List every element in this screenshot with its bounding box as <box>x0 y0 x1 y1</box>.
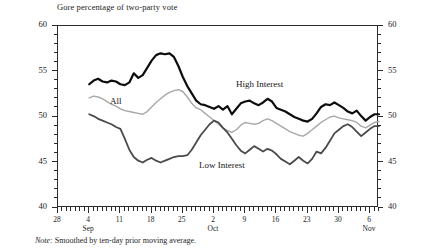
x-axis-tick <box>267 207 268 211</box>
x-axis-tick <box>88 207 89 213</box>
x-axis-tick <box>191 207 192 211</box>
y-axis-tick <box>54 88 57 89</box>
x-axis-tick-label: 18 <box>136 215 166 224</box>
series-lines <box>58 26 379 208</box>
y-axis-tick <box>378 179 381 180</box>
x-axis-tick <box>280 207 281 211</box>
x-axis-tick-label: 28 <box>42 215 72 224</box>
x-axis-tick <box>142 207 143 211</box>
y-axis-tick <box>378 61 381 62</box>
y-axis-tick <box>54 61 57 62</box>
x-axis-tick <box>275 207 276 213</box>
x-axis-tick <box>128 207 129 211</box>
x-axis-tick <box>302 207 303 211</box>
x-axis-tick <box>222 207 223 211</box>
series-label-all: All <box>110 96 122 106</box>
x-axis-tick <box>66 207 67 211</box>
x-axis-tick <box>369 207 370 213</box>
x-axis-tick <box>84 207 85 211</box>
y-axis-tick <box>54 188 57 189</box>
y-axis-tick <box>54 34 57 35</box>
x-axis-tick-label: 6 <box>354 215 384 224</box>
x-axis-tick <box>115 207 116 211</box>
y-axis-tick-label: 40 <box>25 201 47 211</box>
y-axis-tick <box>54 197 57 198</box>
x-axis-tick <box>146 207 147 211</box>
note-text: Smoothed by ten-day prior moving average… <box>55 236 196 245</box>
x-axis-tick <box>351 207 352 211</box>
x-axis-tick <box>164 207 165 211</box>
y-axis-tick-label: 50 <box>25 110 47 120</box>
y-axis-tick <box>54 179 57 180</box>
x-axis-tick <box>329 207 330 211</box>
x-axis-tick <box>333 207 334 211</box>
y-axis-tick-label: 55 <box>388 65 410 75</box>
x-axis-tick <box>213 207 214 213</box>
chart-container: Gore percentage of two-party vote 404550… <box>0 0 422 252</box>
x-axis-tick-label: 16 <box>260 215 290 224</box>
chart-note: Note: Smoothed by ten-day prior moving a… <box>35 236 196 245</box>
x-axis-tick <box>173 207 174 211</box>
x-axis-month-label: Oct <box>198 224 228 233</box>
x-axis-tick <box>137 207 138 211</box>
x-axis-tick <box>75 207 76 211</box>
x-axis-tick <box>240 207 241 211</box>
x-axis-month-label: Sep <box>73 224 103 233</box>
x-axis-tick-label: 2 <box>198 215 228 224</box>
x-axis-tick <box>284 207 285 211</box>
series-label-low-interest: Low Interest <box>199 160 245 170</box>
y-axis-tick-label: 40 <box>388 201 410 211</box>
y-axis-tick <box>52 116 57 117</box>
x-axis-tick <box>124 207 125 211</box>
x-axis-tick <box>316 207 317 211</box>
y-axis-tick <box>54 134 57 135</box>
y-axis-tick <box>378 197 381 198</box>
x-axis-tick <box>57 207 58 213</box>
y-axis-tick <box>378 25 383 26</box>
x-axis-tick <box>244 207 245 213</box>
x-axis-tick-label: 30 <box>323 215 353 224</box>
x-axis-tick <box>293 207 294 211</box>
x-axis-tick <box>79 207 80 211</box>
x-axis-tick <box>378 207 379 211</box>
x-axis-tick <box>311 207 312 211</box>
x-axis-tick <box>168 207 169 211</box>
x-axis-tick <box>102 207 103 211</box>
x-axis-tick <box>177 207 178 211</box>
y-axis-tick <box>378 143 381 144</box>
x-axis-tick-label: 11 <box>104 215 134 224</box>
x-axis-tick <box>249 207 250 211</box>
x-axis-tick <box>61 207 62 211</box>
chart-title: Gore percentage of two-party vote <box>57 2 177 12</box>
y-axis-tick <box>378 106 381 107</box>
x-axis-tick <box>338 207 339 213</box>
y-axis-tick <box>378 134 381 135</box>
x-axis-tick-label: 25 <box>167 215 197 224</box>
x-axis-tick <box>320 207 321 211</box>
x-axis-tick <box>204 207 205 211</box>
x-axis-tick <box>106 207 107 211</box>
series-label-high-interest: High Interest <box>236 79 283 89</box>
x-axis-tick <box>93 207 94 211</box>
x-axis-tick <box>70 207 71 211</box>
x-axis-tick <box>160 207 161 211</box>
y-axis-tick-label: 60 <box>25 19 47 29</box>
x-axis-tick <box>235 207 236 211</box>
x-axis-tick <box>365 207 366 211</box>
series-path <box>89 114 379 164</box>
x-axis-tick <box>182 207 183 213</box>
x-axis-tick <box>133 207 134 211</box>
note-prefix: Note: <box>35 236 53 245</box>
y-axis-tick <box>378 43 381 44</box>
y-axis-tick <box>54 152 57 153</box>
y-axis-tick <box>52 70 57 71</box>
x-axis-tick-label: 4 <box>73 215 103 224</box>
x-axis-tick <box>325 207 326 211</box>
y-axis-tick <box>378 52 381 53</box>
x-axis-tick <box>97 207 98 211</box>
y-axis-tick <box>54 125 57 126</box>
y-axis-tick <box>54 106 57 107</box>
x-axis-tick <box>374 207 375 211</box>
y-axis-tick <box>378 79 381 80</box>
x-axis-tick <box>342 207 343 211</box>
